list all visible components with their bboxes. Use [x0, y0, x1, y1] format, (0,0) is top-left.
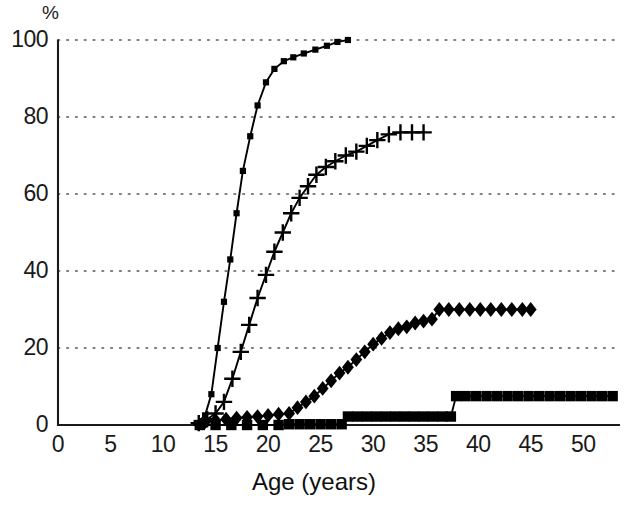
- data-point-marker: [227, 256, 233, 262]
- data-point-marker: [273, 420, 283, 430]
- data-point-marker: [607, 391, 617, 401]
- data-point-marker: [428, 411, 438, 421]
- data-point-marker: [284, 419, 294, 429]
- data-point-marker: [471, 391, 481, 401]
- y-tick-label: 20: [2, 334, 48, 361]
- data-point-marker: [226, 420, 236, 430]
- data-point-marker: [502, 391, 512, 401]
- data-point-marker: [343, 411, 353, 421]
- data-point-marker: [597, 391, 607, 401]
- data-point-marker: [555, 391, 565, 401]
- data-point-marker: [359, 344, 371, 359]
- x-tick-label: 20: [246, 431, 290, 458]
- data-point-marker: [534, 391, 544, 401]
- data-point-marker: [258, 267, 274, 283]
- data-point-marker: [334, 39, 340, 45]
- data-point-marker: [324, 43, 330, 49]
- data-point-marker: [352, 411, 362, 421]
- data-point-marker: [350, 352, 362, 367]
- y-tick-label: 80: [2, 103, 48, 130]
- data-point-marker: [273, 407, 285, 422]
- data-point-marker: [290, 54, 296, 60]
- data-point-marker: [317, 381, 329, 396]
- data-point-marker: [399, 411, 409, 421]
- data-point-marker: [325, 373, 337, 388]
- chart-figure: % Age (years) 02040608010005101520253035…: [0, 0, 628, 515]
- data-point-marker: [291, 190, 307, 206]
- data-point-marker: [544, 391, 554, 401]
- data-point-marker: [275, 224, 291, 240]
- data-point-marker: [294, 419, 304, 429]
- x-tick-label: 10: [141, 431, 185, 458]
- data-point-marker: [221, 299, 227, 305]
- data-point-marker: [301, 50, 307, 56]
- data-point-marker: [523, 391, 533, 401]
- data-point-marker: [300, 178, 316, 194]
- x-tick-label: 5: [89, 431, 133, 458]
- data-point-marker: [586, 391, 596, 401]
- x-tick-label: 40: [456, 431, 500, 458]
- data-point-marker: [453, 302, 465, 317]
- data-point-marker: [305, 419, 315, 429]
- data-point-marker: [195, 420, 205, 430]
- data-point-marker: [446, 411, 456, 421]
- data-point-marker: [326, 419, 336, 429]
- data-point-marker: [492, 391, 502, 401]
- data-point-marker: [506, 302, 518, 317]
- x-tick-label: 15: [194, 431, 238, 458]
- data-point-marker: [215, 345, 221, 351]
- data-point-marker: [474, 302, 486, 317]
- data-point-marker: [513, 391, 523, 401]
- x-tick-label: 30: [351, 431, 395, 458]
- data-point-marker: [216, 394, 232, 410]
- data-point-marker: [249, 290, 265, 306]
- data-point-marker: [242, 420, 252, 430]
- data-point-marker: [390, 411, 400, 421]
- data-point-marker: [525, 302, 537, 317]
- data-point-marker: [409, 411, 419, 421]
- series-line: [205, 310, 531, 422]
- data-point-marker: [418, 411, 428, 421]
- data-point-marker: [233, 344, 249, 360]
- data-point-marker: [241, 317, 257, 333]
- data-point-marker: [451, 391, 461, 401]
- data-point-marker: [281, 58, 287, 64]
- x-tick-label: 0: [36, 431, 80, 458]
- x-tick-label: 45: [509, 431, 553, 458]
- data-point-marker: [283, 205, 299, 221]
- series-steep-small-square-curve: [194, 37, 351, 426]
- x-tick-label: 25: [299, 431, 343, 458]
- data-point-marker: [208, 391, 214, 397]
- data-point-marker: [210, 420, 220, 430]
- data-point-marker: [576, 391, 586, 401]
- data-point-marker: [464, 302, 476, 317]
- data-point-marker: [312, 47, 318, 53]
- data-point-marker: [381, 411, 391, 421]
- data-point-marker: [233, 210, 239, 216]
- data-point-marker: [460, 391, 470, 401]
- y-tick-label: 60: [2, 180, 48, 207]
- data-point-marker: [495, 302, 507, 317]
- data-point-marker: [345, 37, 351, 43]
- data-point-marker: [266, 244, 282, 260]
- y-tick-label: 100: [2, 26, 48, 53]
- data-point-marker: [415, 124, 431, 140]
- series-line: [197, 40, 348, 423]
- data-point-marker: [362, 411, 372, 421]
- data-point-marker: [271, 66, 277, 72]
- x-axis-title: Age (years): [0, 468, 628, 496]
- data-point-marker: [315, 419, 325, 429]
- x-tick-label: 50: [561, 431, 605, 458]
- data-point-marker: [565, 391, 575, 401]
- data-point-marker: [371, 411, 381, 421]
- data-point-marker: [258, 420, 268, 430]
- data-point-marker: [485, 302, 497, 317]
- data-point-marker: [481, 391, 491, 401]
- data-point-marker: [443, 302, 455, 317]
- data-point-marker: [263, 79, 269, 85]
- data-point-marker: [240, 168, 246, 174]
- data-point-marker: [224, 371, 240, 387]
- data-point-marker: [254, 102, 260, 108]
- x-tick-label: 35: [404, 431, 448, 458]
- y-tick-label: 40: [2, 257, 48, 284]
